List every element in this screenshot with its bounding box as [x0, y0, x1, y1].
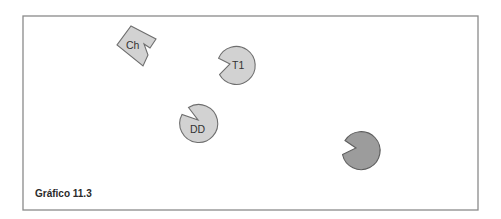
- figure-caption: Gráfico 11.3: [35, 188, 92, 199]
- diagram-canvas: Ch T1 DD Gráfico 11.3: [0, 0, 501, 219]
- shape-label-dd: DD: [190, 123, 206, 135]
- shape-label-ch: Ch: [126, 39, 140, 51]
- shape-label-t1: T1: [232, 59, 244, 71]
- figure-frame: [23, 16, 478, 210]
